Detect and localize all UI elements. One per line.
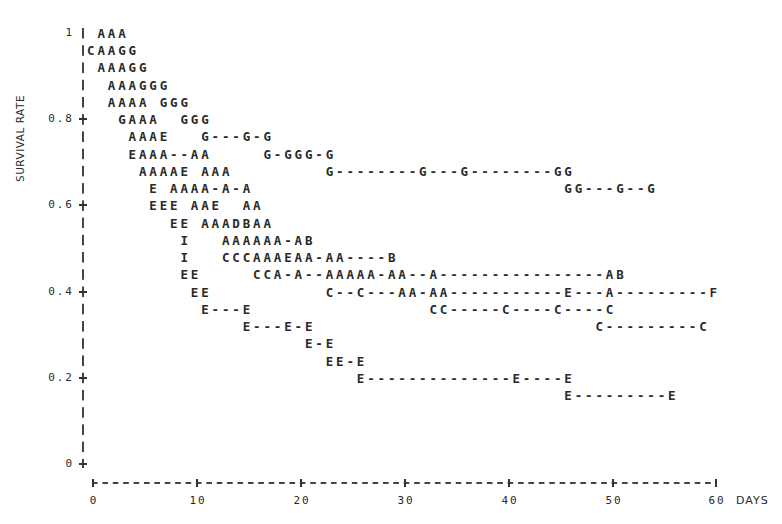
plot-row: I CCCAAAEAA-AA----B [87, 249, 398, 266]
plot-row: AAAGGG [87, 77, 170, 94]
plot-row: AAAE G---G-G [87, 128, 274, 145]
plot-row: GAAA GGG [87, 111, 212, 128]
plot-row: EAAA--AA G-GGG-G [87, 146, 336, 163]
y-tick-label: 0 [20, 457, 74, 471]
x-tick-mark [612, 479, 614, 487]
plot-row: E-E [87, 335, 336, 352]
x-tick-mark [300, 479, 302, 487]
plot-row: E---E CC-----C----C----C [87, 301, 616, 318]
x-tick-label: 0 [74, 494, 114, 507]
y-tick-mark [79, 463, 87, 465]
plot-row: EE AAADBAA [87, 215, 274, 232]
y-tick-mark [79, 118, 87, 120]
plot-row: E---------E [87, 387, 678, 404]
y-axis-line [82, 28, 84, 468]
plot-row: EEE AAE AA [87, 197, 263, 214]
x-tick-label: 20 [282, 494, 322, 507]
x-tick-mark [508, 479, 510, 487]
x-tick-mark [196, 479, 198, 487]
plot-row: E---E-E C---------C [87, 318, 710, 335]
y-tick-label: 0.2 [20, 371, 74, 385]
x-tick-mark [92, 479, 94, 487]
x-tick-label: 40 [490, 494, 530, 507]
plot-row: AAAAE AAA G--------G---G--------GG [87, 163, 575, 180]
plot-row: I AAAAAA-AB [87, 232, 315, 249]
survival-chart: SURVIVAL RATE 1 0.8 0.6 0.4 0.2 0 0 10 2… [0, 0, 782, 524]
plot-row: AAAGG [87, 59, 149, 76]
plot-row: AAA [87, 25, 129, 42]
plot-row: AAAA GGG [87, 94, 191, 111]
y-tick-label: 1 [20, 26, 74, 40]
x-tick-label: 30 [386, 494, 426, 507]
plot-row: E AAAA-A-A GG---G--G [87, 180, 658, 197]
y-tick-mark [79, 291, 87, 293]
plot-row: EE CCA-A--AAAAA-AA--A----------------AB [87, 266, 627, 283]
y-tick-label: 0.8 [20, 112, 74, 126]
y-tick-mark [79, 377, 87, 379]
y-tick-label: 0.6 [20, 198, 74, 212]
y-tick-label: 0.4 [20, 285, 74, 299]
plot-row: E--------------E----E [87, 370, 575, 387]
y-tick-mark [79, 204, 87, 206]
plot-row: EE-E [87, 353, 367, 370]
x-tick-mark [715, 479, 717, 487]
x-tick-label: 50 [594, 494, 634, 507]
x-tick-mark [404, 479, 406, 487]
plot-row: EE C--C---AA-AA-----------E---A---------… [87, 284, 720, 301]
plot-row: CAAGG [87, 42, 139, 59]
y-axis-title: SURVIVAL RATE [14, 95, 26, 182]
x-axis-unit: DAYS [736, 494, 769, 507]
x-tick-label: 60 [697, 494, 737, 507]
x-tick-label: 10 [178, 494, 218, 507]
